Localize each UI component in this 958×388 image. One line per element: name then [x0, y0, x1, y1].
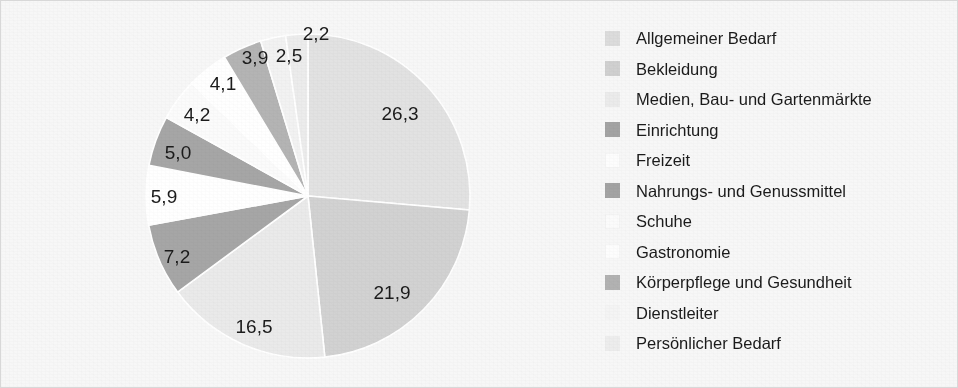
- pie-data-label: 26,3: [382, 103, 419, 125]
- legend-item-label: Körperpflege und Gesundheit: [636, 274, 852, 291]
- pie-slice: [308, 196, 469, 357]
- pie-data-label: 16,5: [236, 316, 273, 338]
- legend-item: Persönlicher Bedarf: [605, 328, 955, 359]
- legend-color-swatch: [605, 61, 620, 76]
- chart-legend: Allgemeiner BedarfBekleidungMedien, Bau-…: [605, 23, 955, 359]
- legend-item: Schuhe: [605, 206, 955, 237]
- legend-item-label: Dienstleiter: [636, 305, 719, 322]
- legend-item: Bekleidung: [605, 54, 955, 85]
- legend-item-label: Gastronomie: [636, 244, 730, 261]
- pie-data-label: 5,0: [165, 142, 191, 164]
- legend-item-label: Freizeit: [636, 152, 690, 169]
- legend-item: Allgemeiner Bedarf: [605, 23, 955, 54]
- legend-item-label: Allgemeiner Bedarf: [636, 30, 776, 47]
- pie-data-label: 5,9: [151, 186, 177, 208]
- pie-data-label: 3,9: [242, 47, 268, 69]
- legend-color-swatch: [605, 244, 620, 259]
- legend-item-label: Einrichtung: [636, 122, 719, 139]
- legend-color-swatch: [605, 336, 620, 351]
- legend-item-label: Nahrungs- und Genussmittel: [636, 183, 846, 200]
- legend-item: Dienstleiter: [605, 298, 955, 329]
- pie-chart-area: 26,321,916,57,25,95,04,24,13,92,52,2: [1, 1, 601, 388]
- legend-item-label: Medien, Bau- und Gartenmärkte: [636, 91, 872, 108]
- pie-data-label: 7,2: [164, 246, 190, 268]
- legend-color-swatch: [605, 31, 620, 46]
- legend-item: Gastronomie: [605, 237, 955, 268]
- legend-item: Medien, Bau- und Gartenmärkte: [605, 84, 955, 115]
- legend-color-swatch: [605, 153, 620, 168]
- legend-color-swatch: [605, 92, 620, 107]
- legend-item: Einrichtung: [605, 115, 955, 146]
- chart-figure: 26,321,916,57,25,95,04,24,13,92,52,2 All…: [0, 0, 958, 388]
- pie-data-label: 2,5: [276, 45, 302, 67]
- legend-item: Körperpflege und Gesundheit: [605, 267, 955, 298]
- pie-slice-group: [146, 34, 470, 358]
- legend-color-swatch: [605, 275, 620, 290]
- pie-data-label: 4,1: [210, 73, 236, 95]
- pie-data-label: 4,2: [184, 104, 210, 126]
- legend-item: Nahrungs- und Genussmittel: [605, 176, 955, 207]
- pie-data-label: 2,2: [303, 23, 329, 45]
- legend-color-swatch: [605, 122, 620, 137]
- legend-color-swatch: [605, 183, 620, 198]
- legend-color-swatch: [605, 305, 620, 320]
- legend-item: Freizeit: [605, 145, 955, 176]
- legend-color-swatch: [605, 214, 620, 229]
- pie-data-label: 21,9: [374, 282, 411, 304]
- legend-item-label: Persönlicher Bedarf: [636, 335, 781, 352]
- legend-item-label: Schuhe: [636, 213, 692, 230]
- legend-item-label: Bekleidung: [636, 61, 718, 78]
